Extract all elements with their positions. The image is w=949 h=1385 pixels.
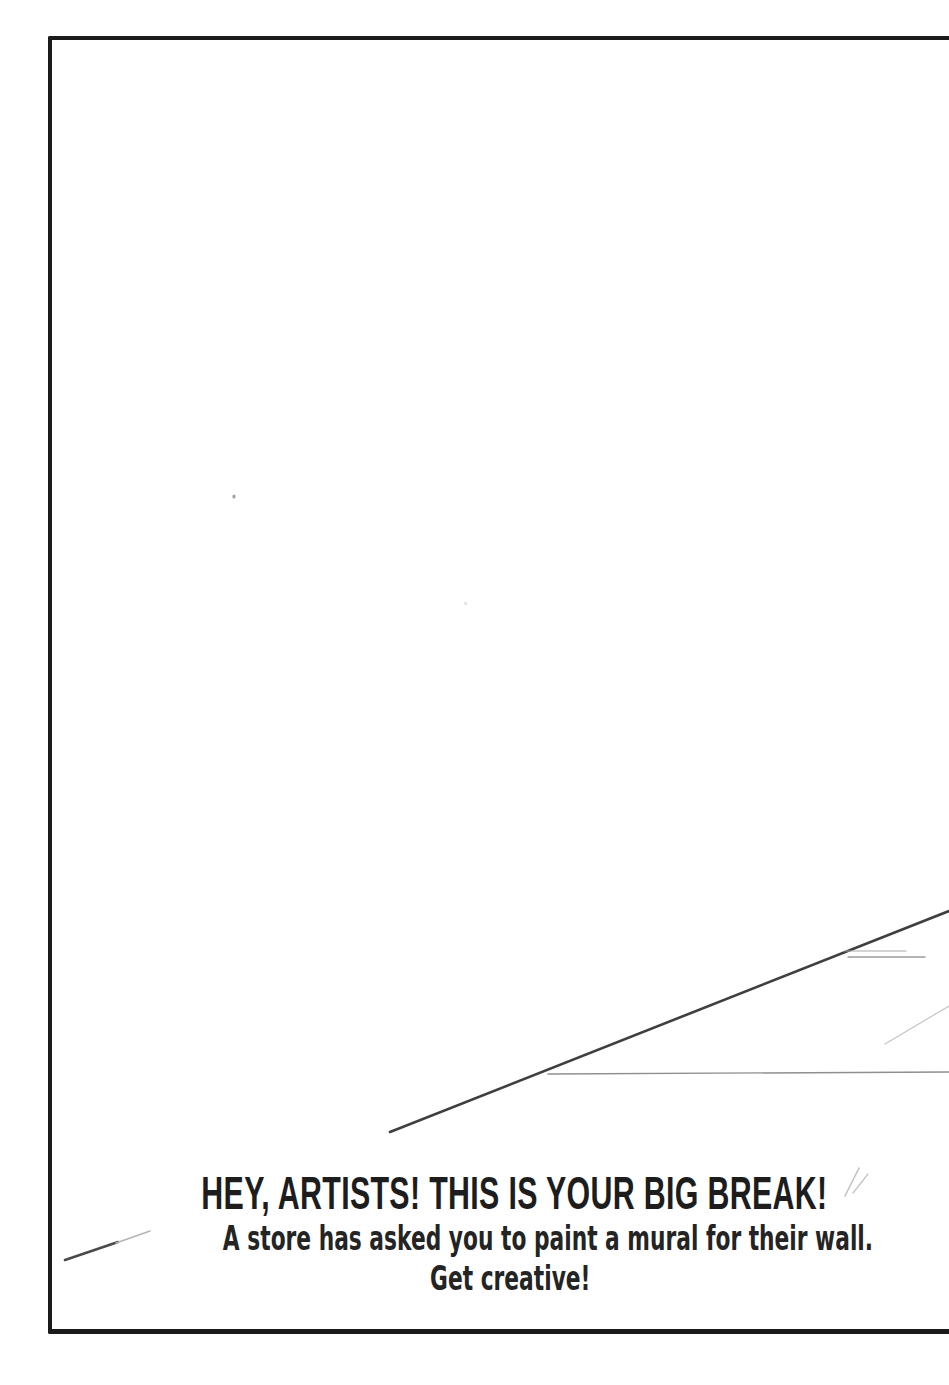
- prompt-subline-1-text: A store has asked you to paint a mural f…: [223, 1218, 873, 1258]
- faint-diagonal-stroke: [885, 1006, 949, 1044]
- prompt-subline-2: Get creative!: [40, 1258, 949, 1298]
- prompt-subline-1: A store has asked you to paint a mural f…: [40, 1218, 949, 1258]
- horizontal-guide-stroke: [548, 1072, 949, 1074]
- prompt-text-block: HEY, ARTISTS! THIS IS YOUR BIG BREAK! A …: [40, 1168, 949, 1298]
- prompt-headline: HEY, ARTISTS! THIS IS YOUR BIG BREAK!: [40, 1168, 949, 1218]
- perspective-diagonal-stroke: [390, 911, 949, 1132]
- prompt-headline-text: HEY, ARTISTS! THIS IS YOUR BIG BREAK!: [201, 1168, 827, 1218]
- paper-speck-faint: [465, 603, 466, 604]
- prompt-subline-2-text: Get creative!: [430, 1258, 590, 1298]
- activity-book-page: HEY, ARTISTS! THIS IS YOUR BIG BREAK! A …: [0, 0, 949, 1385]
